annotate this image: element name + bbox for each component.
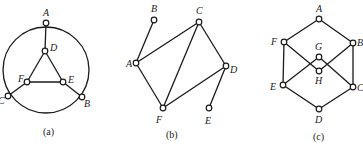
vertex-A xyxy=(316,16,322,22)
vertex-F xyxy=(24,79,30,85)
vertex-E xyxy=(206,105,212,111)
vertex-label-A: A xyxy=(42,7,50,18)
vertex-label-E: E xyxy=(269,81,276,92)
vertex-E xyxy=(280,82,286,88)
graph-a: ADFECB(a) xyxy=(0,7,90,138)
vertex-label-F: F xyxy=(270,36,278,47)
vertex-label-A: A xyxy=(315,3,323,14)
vertex-label-C: C xyxy=(196,5,203,16)
vertex-C xyxy=(350,84,356,90)
edge-F-E xyxy=(283,42,284,85)
vertex-C xyxy=(196,19,202,25)
vertex-label-F: F xyxy=(17,73,25,84)
edge-H-B xyxy=(319,43,353,71)
edge-A-F xyxy=(284,19,319,42)
edge-A-B xyxy=(319,19,353,43)
vertex-A xyxy=(43,20,49,26)
vertex-label-C: C xyxy=(0,95,5,106)
vertex-label-B: B xyxy=(357,37,363,48)
vertex-label-D: D xyxy=(229,64,238,75)
vertex-label-A: A xyxy=(125,58,133,69)
edge-A-F xyxy=(136,63,163,108)
vertex-B xyxy=(151,17,157,23)
edge-E-D xyxy=(283,85,319,109)
vertex-label-H: H xyxy=(314,75,323,86)
vertex-G xyxy=(316,54,322,60)
vertex-D xyxy=(223,63,229,69)
vertex-D xyxy=(316,106,322,112)
vertex-A xyxy=(133,60,139,66)
graph-figure-canvas: ADFECB(a)BCADFE(b)AFBGHECD(c) xyxy=(0,0,363,148)
edge-A-C xyxy=(136,22,199,63)
vertex-label-B: B xyxy=(84,98,90,109)
vertex-E xyxy=(60,79,66,85)
vertex-label-E: E xyxy=(67,74,74,85)
vertex-D xyxy=(42,48,48,54)
vertex-H xyxy=(316,68,322,74)
edge-F-C xyxy=(8,82,27,96)
edge-C-F xyxy=(163,22,199,108)
vertex-B xyxy=(350,40,356,46)
vertex-label-E: E xyxy=(204,115,211,126)
vertex-label-D: D xyxy=(49,42,58,53)
vertex-label-C: C xyxy=(357,82,363,93)
figure-caption: (c) xyxy=(313,131,324,143)
edge-D-E xyxy=(45,51,63,82)
figure-caption: (b) xyxy=(166,129,178,141)
edge-C-D xyxy=(319,87,353,109)
edge-C-D xyxy=(199,22,226,66)
figure-caption: (a) xyxy=(43,126,54,138)
vertex-label-B: B xyxy=(151,3,157,14)
edge-F-H xyxy=(284,42,319,71)
edge-E-G xyxy=(283,57,319,85)
vertex-label-G: G xyxy=(315,41,322,52)
graph-c: AFBGHECD(c) xyxy=(269,3,363,143)
edge-G-C xyxy=(319,57,353,87)
vertex-label-D: D xyxy=(314,114,323,125)
vertex-F xyxy=(281,39,287,45)
vertex-C xyxy=(5,93,11,99)
edge-D-F xyxy=(27,51,45,82)
graph-b: BCADFE(b) xyxy=(125,3,238,141)
vertex-F xyxy=(160,105,166,111)
vertex-label-F: F xyxy=(155,114,163,125)
